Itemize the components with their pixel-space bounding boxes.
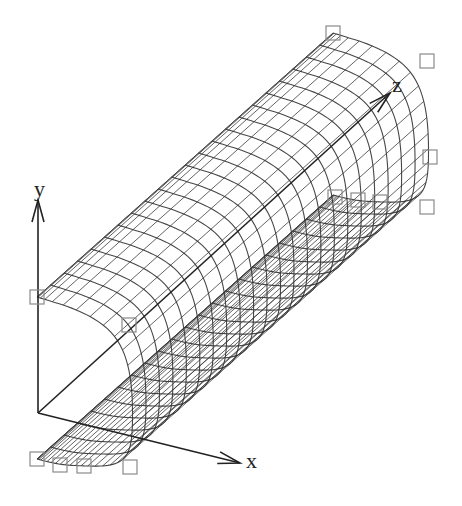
y-axis-label: y (34, 178, 45, 200)
y-axis-arrow (32, 200, 44, 413)
coordinate-axes (32, 93, 390, 464)
control-point-marker (420, 54, 434, 68)
x-axis-label: x (246, 450, 257, 472)
surface-mesh (37, 33, 429, 466)
control-point-marker (123, 460, 137, 474)
control-point-marker (420, 200, 434, 214)
z-axis-label: z (392, 74, 402, 96)
